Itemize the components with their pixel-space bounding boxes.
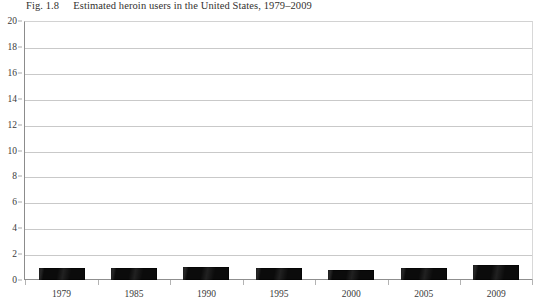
x-tick-label: 2000 xyxy=(315,289,387,300)
y-tick-label: 12 xyxy=(8,120,18,130)
x-tick-mark xyxy=(25,280,26,285)
x-tick-label: 2009 xyxy=(460,289,532,300)
x-tick-label: 2005 xyxy=(388,289,460,300)
bar xyxy=(39,268,85,280)
bar-series xyxy=(25,21,532,280)
y-tick-label: 8 xyxy=(12,171,17,181)
y-axis: 02468101214161820 xyxy=(0,21,22,280)
x-axis: 1979198519901995200020052009 xyxy=(25,280,532,304)
bar xyxy=(183,267,229,280)
bar xyxy=(256,268,302,280)
y-tick-mark xyxy=(18,98,22,99)
bar xyxy=(473,265,519,280)
y-tick-mark xyxy=(18,21,22,22)
x-tick-mark xyxy=(243,280,244,285)
figure-caption: Fig. 1.8Estimated heroin users in the Un… xyxy=(26,0,312,12)
x-tick-mark xyxy=(388,280,389,285)
y-tick-mark xyxy=(18,124,22,125)
y-tick-mark xyxy=(18,280,22,281)
y-tick-label: 4 xyxy=(12,223,17,233)
y-tick-mark xyxy=(18,202,22,203)
x-tick-mark xyxy=(315,280,316,285)
y-tick-label: 6 xyxy=(12,197,17,207)
bar-slot xyxy=(388,21,460,280)
y-tick-mark xyxy=(18,176,22,177)
x-tick-mark xyxy=(98,280,99,285)
y-tick-mark xyxy=(18,228,22,229)
y-tick-mark xyxy=(18,150,22,151)
bar xyxy=(328,270,374,280)
y-tick-mark xyxy=(18,72,22,73)
bar-slot xyxy=(460,21,532,280)
bar-slot xyxy=(25,21,97,280)
y-tick-label: 10 xyxy=(8,146,18,156)
bar-slot xyxy=(243,21,315,280)
x-tick-mark xyxy=(170,280,171,285)
bar-slot xyxy=(315,21,387,280)
x-tick-mark xyxy=(532,280,533,285)
y-tick-label: 18 xyxy=(8,42,18,52)
y-tick-label: 2 xyxy=(12,249,17,259)
bar xyxy=(401,268,447,280)
figure-caption-text: Estimated heroin users in the United Sta… xyxy=(73,0,312,11)
x-tick-label: 1995 xyxy=(243,289,315,300)
y-tick-label: 0 xyxy=(12,275,17,285)
y-tick-mark xyxy=(18,254,22,255)
y-tick-label: 20 xyxy=(8,16,18,26)
bar xyxy=(111,268,157,280)
x-tick-label: 1985 xyxy=(98,289,170,300)
bar-slot xyxy=(98,21,170,280)
y-tick-label: 16 xyxy=(8,68,18,78)
x-tick-label: 1990 xyxy=(170,289,242,300)
y-tick-label: 14 xyxy=(8,94,18,104)
bar-slot xyxy=(170,21,242,280)
x-tick-label: 1979 xyxy=(25,289,97,300)
figure-label: Fig. 1.8 xyxy=(26,0,59,12)
y-tick-mark xyxy=(18,46,22,47)
x-tick-mark xyxy=(460,280,461,285)
